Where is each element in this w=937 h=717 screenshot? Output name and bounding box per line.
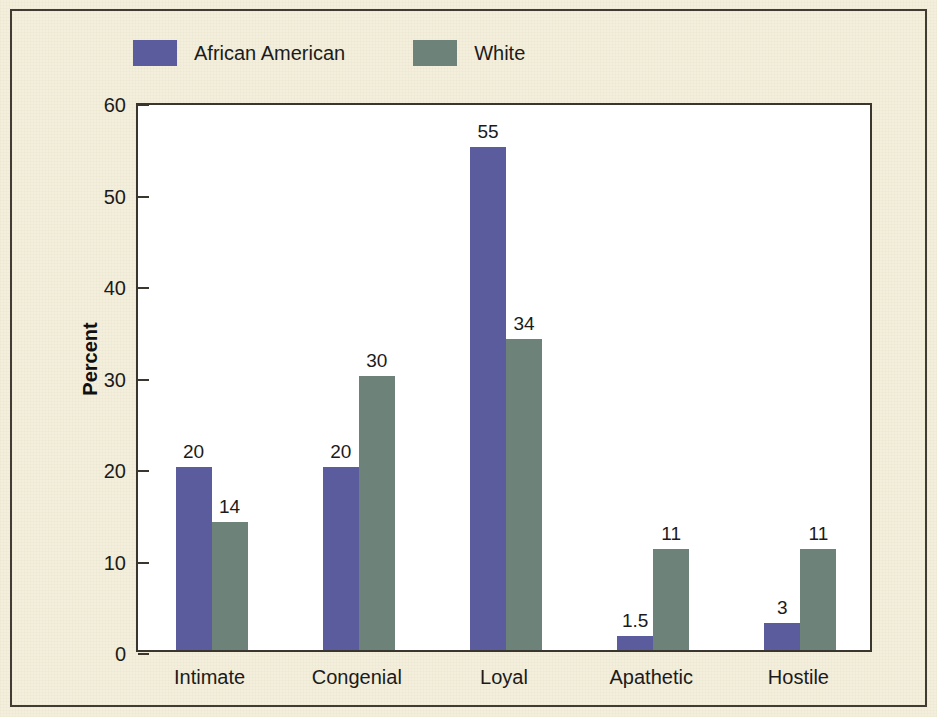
bar-intimate-white[interactable]: 14 (212, 105, 248, 650)
legend-label-african-american: African American (194, 42, 345, 65)
bar-apathetic-african-american[interactable]: 1.5 (617, 105, 653, 650)
legend-entry-white: White (413, 40, 525, 66)
bar-congenial-white[interactable]: 30 (359, 105, 395, 650)
bar-rect (617, 636, 653, 650)
bar-group-loyal: 5534 (470, 105, 542, 650)
bar-loyal-african-american[interactable]: 55 (470, 105, 506, 650)
bar-rect (323, 467, 359, 650)
y-axis-tick-label: 20 (104, 460, 126, 483)
legend-swatch-white-icon (413, 40, 457, 66)
x-axis-tick-label-apathetic: Apathetic (609, 666, 692, 689)
bar-rect (470, 147, 506, 650)
y-axis-title: Percent (79, 322, 102, 395)
chart-legend: African American White (133, 40, 525, 66)
bar-value-label: 30 (366, 350, 387, 372)
bar-group-congenial: 2030 (323, 105, 395, 650)
x-axis-tick-label-congenial: Congenial (312, 666, 402, 689)
bar-loyal-white[interactable]: 34 (506, 105, 542, 650)
y-axis-tick-mark (138, 653, 149, 655)
y-axis-tick-label: 60 (104, 94, 126, 117)
bar-value-label: 11 (809, 523, 829, 545)
bar-value-label: 20 (330, 441, 351, 463)
plot-area: 0102030405060 2014203055341.511311 (136, 103, 872, 652)
y-axis-tick-label: 0 (115, 643, 126, 666)
bar-rect (653, 549, 689, 650)
bar-value-label: 34 (513, 313, 534, 335)
bar-group-intimate: 2014 (176, 105, 248, 650)
bar-value-label: 1.5 (622, 610, 648, 632)
bar-hostile-african-american[interactable]: 3 (764, 105, 800, 650)
bar-rect (764, 623, 800, 650)
bar-group-hostile: 311 (764, 105, 836, 650)
bar-value-label: 11 (661, 523, 681, 545)
legend-label-white: White (474, 42, 525, 65)
x-axis-tick-label-hostile: Hostile (768, 666, 829, 689)
bar-rect (212, 522, 248, 650)
bar-congenial-african-american[interactable]: 20 (323, 105, 359, 650)
bar-value-label: 20 (183, 441, 204, 463)
bar-hostile-white[interactable]: 11 (800, 105, 836, 650)
bar-apathetic-white[interactable]: 11 (653, 105, 689, 650)
legend-swatch-african-american-icon (133, 40, 177, 66)
legend-spacer (345, 53, 413, 54)
bar-rect (506, 339, 542, 650)
bar-rect (176, 467, 212, 650)
y-axis-tick-label: 10 (104, 551, 126, 574)
x-axis-tick-label-intimate: Intimate (174, 666, 245, 689)
bars-layer: 2014203055341.511311 (138, 105, 870, 650)
bar-rect (800, 549, 836, 650)
legend-entry-african-american: African American (133, 40, 345, 66)
bar-rect (359, 376, 395, 651)
bar-group-apathetic: 1.511 (617, 105, 689, 650)
x-axis-tick-label-loyal: Loyal (480, 666, 528, 689)
bar-chart-figure: African American White Percent 010203040… (0, 0, 937, 717)
y-axis-tick-label: 50 (104, 185, 126, 208)
y-axis-tick-label: 40 (104, 277, 126, 300)
bar-value-label: 3 (777, 597, 788, 619)
bar-value-label: 55 (477, 121, 498, 143)
bar-intimate-african-american[interactable]: 20 (176, 105, 212, 650)
y-axis-tick-label: 30 (104, 368, 126, 391)
bar-value-label: 14 (219, 496, 240, 518)
